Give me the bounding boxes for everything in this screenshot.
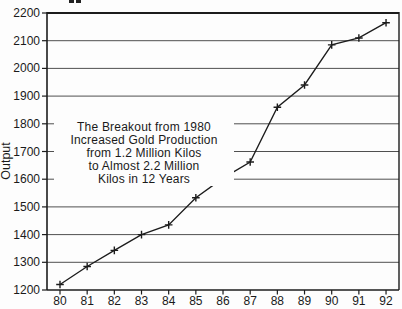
x-tick-label: 91 bbox=[352, 294, 366, 308]
x-tick-label: 87 bbox=[244, 294, 258, 308]
x-tick-label: 89 bbox=[298, 294, 312, 308]
x-tick-label: 92 bbox=[379, 294, 393, 308]
chart-page: 1200130014001500160017001800190020002100… bbox=[0, 0, 402, 309]
chart-annotation: The Breakout from 1980Increased Gold Pro… bbox=[54, 121, 234, 186]
y-tick-label: 1500 bbox=[13, 200, 40, 214]
data-point-marker bbox=[56, 281, 64, 289]
x-tick-label: 86 bbox=[216, 294, 230, 308]
x-tick-label: 81 bbox=[80, 294, 94, 308]
data-point-marker bbox=[138, 231, 146, 239]
x-tick-label: 82 bbox=[108, 294, 122, 308]
y-tick-label: 1900 bbox=[13, 89, 40, 103]
x-tick-label: 83 bbox=[135, 294, 149, 308]
data-point-marker bbox=[328, 41, 336, 49]
annotation-line: Kilos in 12 Years bbox=[54, 173, 234, 186]
data-point-marker bbox=[246, 158, 254, 166]
x-tick-label: 84 bbox=[162, 294, 176, 308]
data-point-marker bbox=[111, 247, 119, 255]
y-tick-label: 2000 bbox=[13, 61, 40, 75]
y-tick-label: 1600 bbox=[13, 172, 40, 186]
x-tick-label: 90 bbox=[325, 294, 339, 308]
y-axis-title: Output bbox=[0, 142, 13, 180]
data-point-marker bbox=[382, 19, 390, 27]
x-tick-label: 80 bbox=[53, 294, 67, 308]
y-tick-label: 1800 bbox=[13, 117, 40, 131]
y-tick-label: 1200 bbox=[13, 283, 40, 297]
x-tick-label: 88 bbox=[271, 294, 285, 308]
data-point-marker bbox=[83, 263, 91, 271]
y-tick-label: 1300 bbox=[13, 255, 40, 269]
y-tick-label: 2200 bbox=[13, 6, 40, 20]
y-tick-label: 1400 bbox=[13, 228, 40, 242]
x-tick-label: 85 bbox=[189, 294, 203, 308]
y-tick-label: 2100 bbox=[13, 34, 40, 48]
y-tick-label: 1700 bbox=[13, 145, 40, 159]
